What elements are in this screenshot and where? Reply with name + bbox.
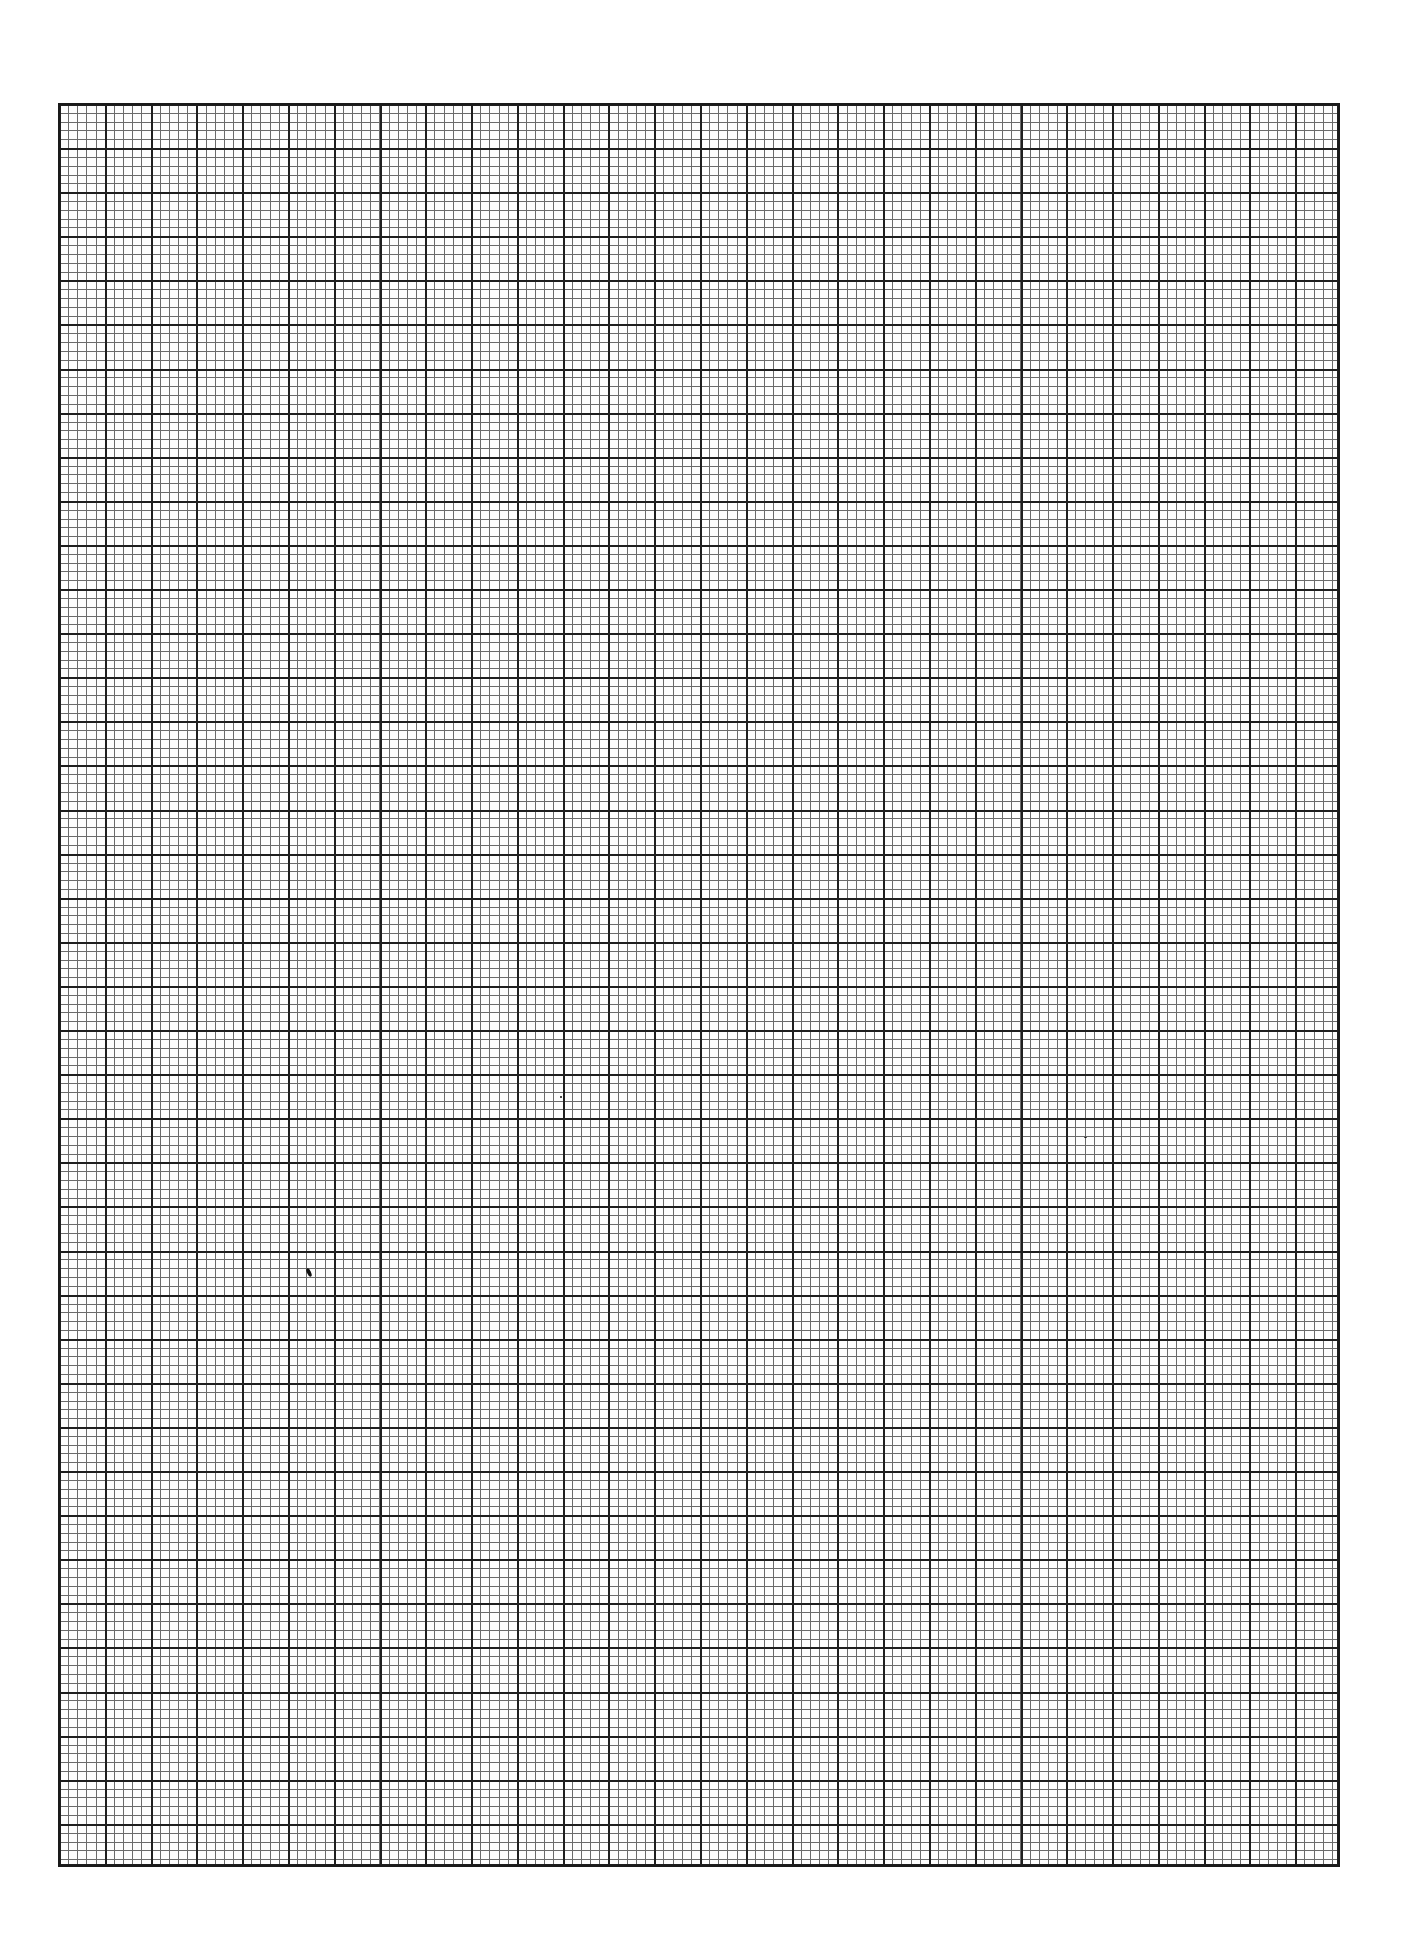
graph-paper-grid	[58, 103, 1340, 1867]
dot-mark	[560, 1096, 562, 1098]
dash-mark	[1084, 1137, 1087, 1138]
